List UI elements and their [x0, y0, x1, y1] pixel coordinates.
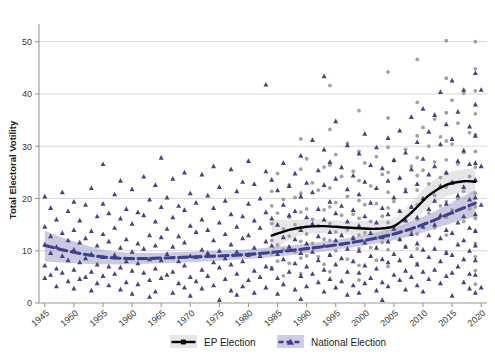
ep-election-point: [276, 259, 280, 263]
y-tick-label-40: 40: [22, 89, 32, 99]
ep-election-point: [380, 214, 384, 218]
ep-election-point: [427, 211, 431, 215]
legend-item-ep-election[interactable]: EP Election: [170, 335, 256, 348]
ep-election-point: [357, 199, 361, 203]
ep-election-point: [415, 174, 419, 178]
y-tick-label-50: 50: [22, 37, 32, 47]
ep-election-point: [380, 240, 384, 244]
ep-election-point: [444, 39, 448, 43]
ep-election-point: [270, 222, 274, 226]
ep-election-point: [270, 189, 274, 193]
ep-election-point: [421, 125, 425, 129]
y-axis-label: Total Electoral Votility: [7, 120, 18, 219]
ep-election-point: [334, 249, 338, 253]
ep-election-point: [322, 165, 326, 169]
ep-election-point: [473, 150, 477, 154]
ep-election-point: [328, 270, 332, 274]
ep-election-point: [363, 161, 367, 165]
ep-election-point: [311, 181, 315, 185]
legend-label: EP Election: [204, 337, 256, 348]
y-tick-label-10: 10: [22, 246, 32, 256]
ep-election-point: [293, 196, 297, 200]
ep-election-point: [444, 76, 448, 80]
ep-election-point: [270, 238, 274, 242]
ep-election-point: [305, 207, 309, 211]
ep-election-point: [421, 168, 425, 172]
ep-election-point: [386, 265, 390, 269]
ep-election-point: [433, 117, 437, 121]
ep-election-point: [322, 262, 326, 266]
ep-election-point: [375, 258, 379, 262]
ep-election-point: [456, 121, 460, 125]
ep-election-point: [299, 137, 303, 141]
ep-election-point: [311, 242, 315, 246]
ep-election-point: [328, 238, 332, 242]
ep-election-point: [386, 248, 390, 252]
ep-election-point: [415, 156, 419, 160]
ep-election-point: [386, 190, 390, 194]
ep-election-point: [293, 223, 297, 227]
ep-election-point: [444, 111, 448, 115]
y-tick-label-30: 30: [22, 142, 32, 152]
ep-election-point: [357, 233, 361, 237]
ep-election-point: [334, 201, 338, 205]
ep-election-point: [299, 256, 303, 260]
ep-election-point: [386, 206, 390, 210]
ep-election-point: [386, 170, 390, 174]
ep-election-point: [345, 257, 349, 261]
ep-election-point: [427, 144, 431, 148]
ep-election-point: [415, 100, 419, 104]
ep-election-point: [363, 231, 367, 235]
legend-item-national-election[interactable]: National Election: [277, 335, 386, 348]
ep-election-point: [473, 216, 477, 220]
ep-election-point: [299, 167, 303, 171]
ep-election-point: [380, 173, 384, 177]
ep-election-point: [328, 222, 332, 226]
ep-election-point: [328, 186, 332, 190]
ep-election-point: [340, 175, 344, 179]
ep-election-point: [415, 134, 419, 138]
ep-election-point: [322, 208, 326, 212]
ep-election-point: [427, 182, 431, 186]
ep-election-point: [473, 205, 477, 209]
ep-election-point: [415, 232, 419, 236]
ep-election-point: [357, 179, 361, 183]
ep-election-point: [375, 155, 379, 159]
ep-election-point: [473, 269, 477, 273]
ep-election-point: [363, 203, 367, 207]
ep-election-point: [444, 233, 448, 237]
ep-election-point: [345, 194, 349, 198]
y-tick-label-0: 0: [27, 298, 32, 308]
ep-election-point: [473, 40, 477, 44]
chart-figure: 01020304050 1945195019551960196519701975…: [0, 0, 495, 363]
ep-election-point: [340, 213, 344, 217]
legend-label: National Election: [311, 337, 386, 348]
ep-election-point: [444, 139, 448, 143]
ep-election-point: [473, 67, 477, 71]
ep-election-point: [473, 282, 477, 286]
ep-election-point: [473, 89, 477, 93]
ep-election-point: [328, 205, 332, 209]
ep-election-point: [369, 220, 373, 224]
ep-election-point: [439, 204, 443, 208]
ep-election-point: [473, 165, 477, 169]
ep-election-point: [468, 131, 472, 135]
ep-election-point: [462, 189, 466, 193]
ep-election-point: [415, 58, 419, 62]
ep-election-point: [334, 153, 338, 157]
ep-election-point: [357, 216, 361, 220]
electoral-volatility-scatter-chart: 01020304050 1945195019551960196519701975…: [0, 0, 495, 363]
ep-election-point: [386, 70, 390, 74]
ep-election-point: [287, 234, 291, 238]
ep-election-point: [473, 112, 477, 116]
ep-election-point: [433, 193, 437, 197]
ep-election-point: [386, 221, 390, 225]
legend-marker-square: [181, 340, 186, 345]
ep-election-point: [415, 247, 419, 251]
ep-election-point: [369, 184, 373, 188]
ep-election-point: [433, 160, 437, 164]
ep-election-point: [439, 135, 443, 139]
ep-election-point: [328, 128, 332, 132]
ep-election-point: [386, 145, 390, 149]
ep-election-point: [322, 237, 326, 241]
